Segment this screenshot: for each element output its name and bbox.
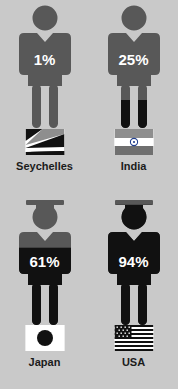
flag-india-icon — [114, 129, 153, 155]
country-label-india: India — [89, 161, 178, 172]
flag-japan-icon — [25, 325, 64, 351]
person-figure-icon — [6, 4, 84, 132]
panel-japan: 61% Japan — [0, 195, 89, 389]
country-label-usa: USA — [89, 357, 178, 368]
figure-empty-area — [6, 4, 84, 132]
country-label-japan: Japan — [0, 357, 89, 368]
figure-filled-area — [95, 100, 173, 132]
figure-empty-area — [95, 4, 173, 132]
panel-seychelles: 1% Seychelles — [0, 0, 89, 195]
flag-usa-icon — [114, 325, 153, 351]
panel-india: 25% India — [89, 0, 178, 195]
figure-filled-area — [6, 247, 84, 326]
person-figure-graduate-icon — [6, 197, 84, 327]
figure-filled-area — [95, 204, 173, 326]
figure-usa: 94% — [95, 197, 173, 327]
person-figure-icon — [95, 4, 173, 132]
figure-seychelles: 1% — [6, 4, 84, 132]
country-label-seychelles: Seychelles — [0, 161, 89, 172]
pictogram-chart: 1% Seychelles — [0, 0, 178, 389]
person-figure-graduate-icon — [95, 197, 173, 327]
figure-india: 25% — [95, 4, 173, 132]
flag-seychelles-icon — [25, 129, 64, 155]
figure-japan: 61% — [6, 197, 84, 327]
panel-usa: 94% — [89, 195, 178, 389]
